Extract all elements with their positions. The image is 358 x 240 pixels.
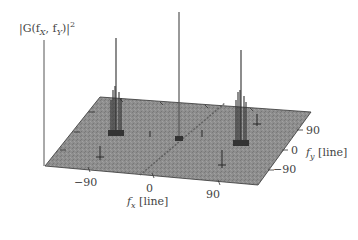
y-tick-neg90: −90	[273, 164, 296, 175]
y-tick-0: 0	[291, 145, 298, 156]
y-tick-90: 90	[306, 125, 320, 136]
dc-base	[175, 136, 183, 141]
y-axis-label: fy [line]	[306, 147, 347, 161]
left-peak-base	[108, 130, 124, 136]
x-tick-0: 0	[146, 183, 153, 194]
left-peak-cluster	[111, 38, 121, 134]
x-tick-neg90: −90	[74, 177, 97, 188]
z-axis-label: |G(fX, fY)|2	[19, 21, 75, 37]
x-axis-label: fx [line]	[127, 196, 168, 210]
x-tick-90: 90	[206, 189, 220, 200]
right-peak-base	[233, 140, 249, 146]
right-peak-cluster	[236, 50, 246, 144]
